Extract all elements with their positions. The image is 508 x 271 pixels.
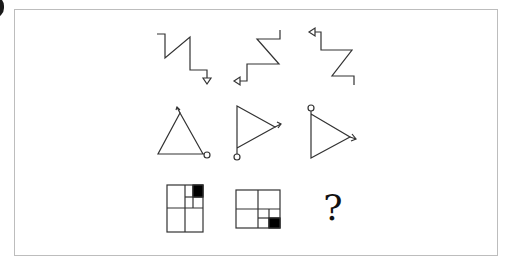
- question-mark-answer-slot: ?: [318, 188, 348, 228]
- puzzle-canvas: [0, 0, 508, 271]
- row2-figure3-triangle: [308, 105, 356, 158]
- row1-figure3-zigzag: [309, 28, 354, 85]
- row2-figure2-triangle: [234, 106, 281, 160]
- row1-figure2-zigzag: [234, 30, 280, 85]
- row3-figure2-grid: [236, 190, 280, 228]
- row3-figure1-grid: [167, 185, 203, 232]
- row2-figure1-triangle: [158, 107, 210, 158]
- row1-figure1-zigzag: [157, 34, 211, 84]
